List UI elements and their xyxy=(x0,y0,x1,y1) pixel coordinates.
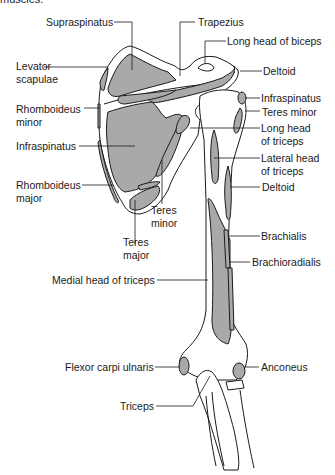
deltoid-insertion-muscle xyxy=(225,166,232,220)
label-rhomboideus-major-line1: Rhomboideus xyxy=(16,179,81,192)
label-rhomboideus-major-line2: major xyxy=(16,192,42,205)
label-supraspinatus: Supraspinatus xyxy=(46,16,113,29)
label-flexor-carpi-ulnaris: Flexor carpi ulnaris xyxy=(65,361,154,374)
label-brachialis: Brachialis xyxy=(261,230,307,243)
label-teres-minor-right: Teres minor xyxy=(262,106,317,119)
label-teres-major-line1: Teres xyxy=(123,236,149,249)
label-infraspinatus-right: Infraspinatus xyxy=(261,92,321,105)
label-trapezius: Trapezius xyxy=(198,16,244,29)
label-brachioradialis: Brachioradialis xyxy=(252,256,321,269)
label-triceps: Triceps xyxy=(120,400,154,413)
label-levator-scapulae-line2: scapulae xyxy=(16,73,58,86)
label-infraspinatus-left: Infraspinatus xyxy=(16,140,76,153)
label-lateral-head-of-triceps-line1: Lateral head xyxy=(261,152,319,165)
label-teres-minor-center-line2: minor xyxy=(151,217,177,230)
label-rhomboideus-minor-line1: Rhomboideus xyxy=(16,103,81,116)
label-teres-minor-center-line1: Teres xyxy=(151,204,177,217)
flexor-carpi-ulnaris-muscle xyxy=(179,357,189,375)
label-long-head-of-biceps: Long head of biceps xyxy=(227,35,322,48)
label-levator-scapulae-line1: Levator xyxy=(16,60,51,73)
label-anconeus: Anconeus xyxy=(261,361,308,374)
anconeus-muscle xyxy=(233,363,245,379)
label-deltoid-mid: Deltoid xyxy=(262,181,295,194)
label-long-head-of-triceps-line1: Long head xyxy=(261,122,311,135)
label-deltoid-top: Deltoid xyxy=(263,65,296,78)
radius-ring xyxy=(226,380,244,390)
label-lateral-head-of-triceps-line2: of triceps xyxy=(261,165,304,178)
label-medial-head-of-triceps: Medial head of triceps xyxy=(52,274,155,287)
label-long-head-of-triceps-line2: of triceps xyxy=(261,135,304,148)
label-teres-major-line2: major xyxy=(123,249,149,262)
infraspinatus-insertion-muscle xyxy=(238,92,246,104)
label-rhomboideus-minor-line2: minor xyxy=(16,116,42,129)
